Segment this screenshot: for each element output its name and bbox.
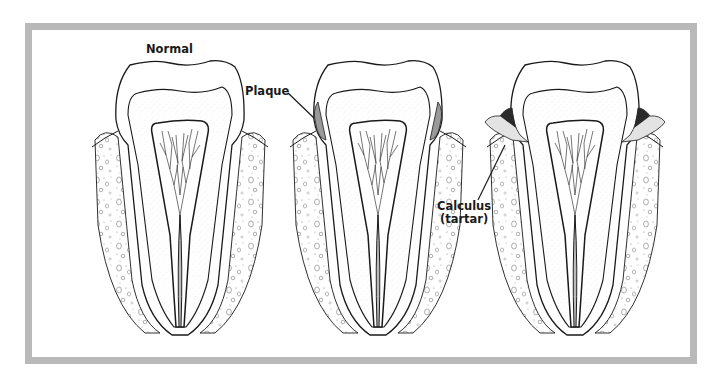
tooth-plaque: [290, 61, 466, 335]
label-plaque: Plaque: [245, 85, 289, 98]
label-normal: Normal: [146, 43, 193, 56]
teeth-illustration: [0, 0, 724, 385]
label-calculus-line2: (tartar): [437, 213, 491, 226]
tooth-calculus: [487, 61, 663, 335]
tooth-normal: [92, 61, 268, 335]
label-calculus: Calculus (tartar): [437, 200, 491, 226]
